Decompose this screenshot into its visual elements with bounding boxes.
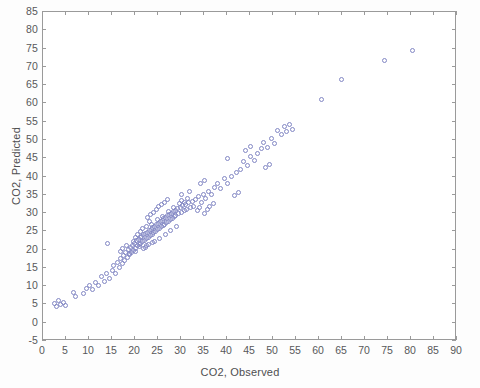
y-axis-tick [42,84,46,85]
data-point [218,186,223,191]
data-point [155,217,160,222]
plot-data-area [43,12,455,339]
x-axis-tick [88,11,89,15]
x-axis-tick [364,336,365,340]
data-point [163,232,168,237]
y-axis-tick [452,139,456,140]
data-point [238,167,243,172]
x-axis-tick-label: 15 [105,345,117,356]
data-point [284,129,289,134]
x-axis-tick-label: 10 [82,345,94,356]
scatter-plot-figure: -505101520253035404550556065707580850510… [0,0,480,388]
x-axis-tick [88,336,89,340]
x-axis-tick-label: 55 [289,345,301,356]
y-axis-tick [452,303,456,304]
x-axis-tick [433,11,434,15]
data-point [225,156,230,161]
y-axis-tick-label: 50 [26,134,38,144]
y-axis-tick-label: 20 [26,244,38,254]
y-axis-tick [42,340,46,341]
y-axis-tick-label: 55 [26,116,38,126]
y-axis-tick-label: 40 [26,171,38,181]
data-point [113,271,118,276]
plot-frame [42,11,456,340]
data-point [96,283,101,288]
x-axis-tick [341,336,342,340]
data-point [179,192,184,197]
data-point [102,279,107,284]
y-axis-tick [452,230,456,231]
x-axis-tick [226,336,227,340]
data-point [187,189,192,194]
data-point [245,163,250,168]
y-axis-tick [452,157,456,158]
y-axis-tick [42,285,46,286]
y-axis-tick [452,340,456,341]
data-point [236,190,241,195]
y-axis-tick-label: 35 [26,189,38,199]
data-point [255,151,260,156]
x-axis-tick-label: 70 [358,345,370,356]
data-point [150,240,155,245]
x-axis-tick [203,11,204,15]
y-axis-tick [452,176,456,177]
y-axis-tick [42,157,46,158]
y-axis-tick [42,48,46,49]
y-axis-tick-label: 70 [26,61,38,71]
x-axis-tick [65,336,66,340]
y-axis-tick [42,194,46,195]
y-axis-tick-label: 65 [26,79,38,89]
data-point [225,181,230,186]
data-point [140,226,145,231]
x-axis-tick [65,11,66,15]
y-axis-tick [452,194,456,195]
x-axis-tick [42,11,43,15]
x-axis-tick [387,336,388,340]
x-axis-tick-label: 80 [404,345,416,356]
data-point [265,145,270,150]
x-axis-tick [42,336,43,340]
data-point [410,48,415,53]
x-axis-tick-label: 40 [220,345,232,356]
data-point [168,228,173,233]
x-axis-tick [456,336,457,340]
y-axis-tick-label: -5 [28,335,38,345]
x-axis-tick [318,11,319,15]
x-axis-tick-label: 45 [243,345,255,356]
y-axis-tick [42,176,46,177]
data-point [252,158,257,163]
data-point [63,303,68,308]
y-axis-tick [42,267,46,268]
x-axis-tick [111,11,112,15]
data-point [131,239,136,244]
data-point [203,196,208,201]
x-axis-tick [111,336,112,340]
x-axis-tick [180,336,181,340]
y-axis-tick [452,267,456,268]
x-axis-tick [341,11,342,15]
x-axis-tick [249,11,250,15]
data-point [165,197,170,202]
y-axis-tick [42,29,46,30]
x-axis-tick [410,336,411,340]
data-point [382,58,387,63]
y-axis-tick-label: 25 [26,225,38,235]
data-point [133,249,138,254]
y-axis-tick [42,212,46,213]
y-axis-tick [452,66,456,67]
x-axis-tick [295,336,296,340]
y-axis-tick [42,303,46,304]
y-axis-tick-label: 5 [32,298,38,308]
y-axis-tick [452,249,456,250]
data-point [243,148,248,153]
x-axis-tick-label: 75 [381,345,393,356]
x-axis-tick-label: 35 [197,345,209,356]
data-point [81,291,86,296]
y-axis-tick [42,230,46,231]
x-axis-tick-label: 85 [427,345,439,356]
x-axis-tick [157,336,158,340]
y-axis-tick [452,322,456,323]
y-axis-tick [452,285,456,286]
x-axis-tick-label: 90 [450,345,462,356]
y-axis-tick-label: 75 [26,43,38,53]
